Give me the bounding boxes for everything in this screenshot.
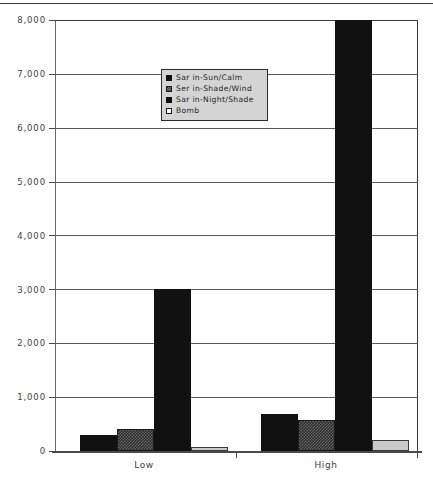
y-tick-label-5000: 5,000: [2, 178, 46, 187]
legend-swatch-icon-ser-in-shade-wind: [166, 86, 172, 92]
legend-item-bomb[interactable]: Bomb: [166, 106, 263, 116]
bar-low-sar-in-night-shade[interactable]: [154, 289, 191, 451]
bar-high-bomb[interactable]: [372, 440, 409, 451]
y-tick-label-0: 0: [2, 447, 46, 456]
x-tick-mid: [236, 452, 237, 458]
chart-legend: Sar in-Sun/Calm Ser in-Shade/Wind Sar in…: [161, 69, 268, 121]
legend-label-bomb: Bomb: [176, 107, 199, 115]
y-axis-labels: 8,000 7,000 6,000 5,000 4,000 3,000 2,00…: [0, 0, 46, 489]
bar-low-sar-in-sun-calm[interactable]: [80, 435, 117, 451]
x-tick-right: [417, 452, 418, 458]
x-category-label-low: Low: [114, 461, 174, 470]
legend-swatch-icon-sar-in-night-shade: [166, 97, 172, 103]
x-axis-line: [52, 451, 422, 453]
legend-swatch-icon-bomb: [166, 108, 172, 114]
y-tick-label-8000: 8,000: [2, 16, 46, 25]
y-tick-label-3000: 3,000: [2, 286, 46, 295]
legend-item-ser-in-shade-wind[interactable]: Ser in-Shade/Wind: [166, 84, 263, 94]
y-tick-label-6000: 6,000: [2, 124, 46, 133]
legend-label-sar-in-sun-calm: Sar in-Sun/Calm: [176, 74, 242, 82]
top-divider-rule: [0, 3, 433, 4]
x-category-label-high: High: [296, 461, 356, 470]
bar-high-ser-in-shade-wind[interactable]: [298, 420, 335, 451]
bar-low-ser-in-shade-wind[interactable]: [117, 429, 154, 451]
legend-label-sar-in-night-shade: Sar in-Night/Shade: [176, 96, 254, 104]
legend-swatch-icon-sar-in-sun-calm: [166, 75, 172, 81]
legend-item-sar-in-sun-calm[interactable]: Sar in-Sun/Calm: [166, 73, 263, 83]
y-tick-label-1000: 1,000: [2, 393, 46, 402]
y-tick-label-7000: 7,000: [2, 70, 46, 79]
legend-item-sar-in-night-shade[interactable]: Sar in-Night/Shade: [166, 95, 263, 105]
y-tick-label-2000: 2,000: [2, 339, 46, 348]
legend-label-ser-in-shade-wind: Ser in-Shade/Wind: [176, 85, 252, 93]
bar-high-sar-in-night-shade[interactable]: [335, 20, 372, 451]
bar-high-sar-in-sun-calm[interactable]: [261, 414, 298, 451]
y-tick-label-4000: 4,000: [2, 232, 46, 241]
